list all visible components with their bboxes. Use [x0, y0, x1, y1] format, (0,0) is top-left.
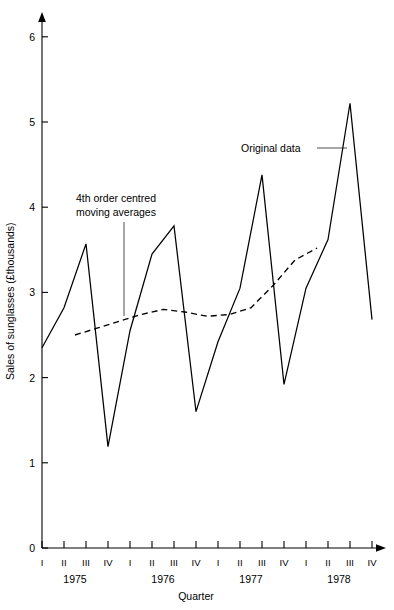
x-quarter-label-group: IIIIIIIVIIIIIIIVIIIIIIIVIIIIIIIV	[41, 557, 377, 568]
x-quarter-label: I	[305, 557, 308, 568]
x-quarter-label: II	[237, 557, 242, 568]
chart-figure: 0123456 IIIIIIIVIIIIIIIVIIIIIIIVIIIIIIIV…	[0, 0, 394, 610]
x-quarter-label: I	[41, 557, 44, 568]
series-moving-average	[75, 248, 317, 335]
x-quarter-label: IV	[192, 557, 202, 568]
x-quarter-label: I	[129, 557, 132, 568]
x-quarter-label: IV	[368, 557, 378, 568]
y-tick-label: 1	[29, 457, 35, 469]
x-axis-title: Quarter	[178, 590, 214, 602]
x-quarter-label: II	[149, 557, 154, 568]
x-quarter-label: IV	[280, 557, 290, 568]
x-quarter-label: I	[217, 557, 220, 568]
x-quarter-label: III	[258, 557, 266, 568]
y-tick-label: 4	[29, 201, 35, 213]
y-tick-group: 0123456	[29, 31, 48, 554]
y-tick-label: 0	[29, 542, 35, 554]
x-year-label: 1977	[239, 573, 263, 585]
moving-averages-annotation: 4th order centred moving averages	[76, 192, 156, 316]
y-axis-arrow-icon	[38, 12, 46, 22]
chart-canvas: 0123456 IIIIIIIVIIIIIIIVIIIIIIIVIIIIIIIV…	[0, 0, 394, 610]
series-original-data	[42, 103, 372, 446]
x-tick-group	[42, 541, 372, 548]
x-year-label: 1978	[327, 573, 351, 585]
x-quarter-label: II	[325, 557, 330, 568]
x-year-label: 1975	[63, 573, 87, 585]
y-tick-label: 5	[29, 116, 35, 128]
x-axis-arrow-icon	[376, 544, 386, 552]
original-data-annotation-label: Original data	[241, 142, 301, 154]
moving-averages-annotation-line1: 4th order centred	[76, 192, 156, 204]
y-tick-label: 2	[29, 372, 35, 384]
x-year-label-group: 1975197619771978	[63, 573, 351, 585]
y-axis-title: Sales of sunglasses (£thousands)	[4, 222, 16, 380]
y-tick-label: 3	[29, 286, 35, 298]
original-data-annotation: Original data	[241, 142, 347, 154]
x-quarter-label: II	[61, 557, 66, 568]
x-year-label: 1976	[151, 573, 175, 585]
y-axis	[38, 12, 46, 548]
x-axis	[42, 544, 386, 552]
moving-averages-annotation-line2: moving averages	[76, 206, 156, 218]
x-quarter-label: III	[346, 557, 354, 568]
x-quarter-label: IV	[104, 557, 114, 568]
y-tick-label: 6	[29, 31, 35, 43]
x-quarter-label: III	[82, 557, 90, 568]
x-quarter-label: III	[170, 557, 178, 568]
